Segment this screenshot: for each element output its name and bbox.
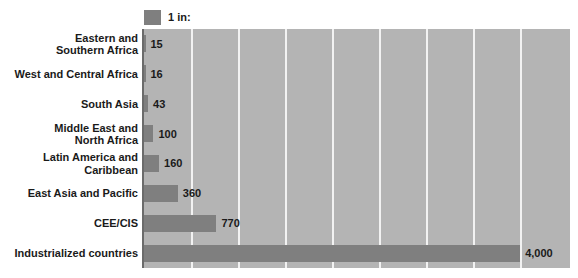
bar-value-label: 160: [164, 157, 182, 169]
bar-row: West and Central Africa16: [144, 59, 570, 89]
bar: [144, 35, 146, 52]
legend-swatch-icon: [144, 10, 161, 25]
plot-area: Eastern and Southern Africa15West and Ce…: [144, 29, 570, 268]
bar-row: Eastern and Southern Africa15: [144, 29, 570, 59]
bar: [144, 185, 178, 202]
bar-value-label: 4,000: [525, 247, 553, 259]
bar: [144, 125, 153, 142]
category-label: CEE/CIS: [0, 217, 138, 230]
bar-value-label: 360: [183, 187, 201, 199]
bar-value-label: 15: [151, 38, 163, 50]
bar: [144, 245, 520, 262]
bar: [144, 155, 159, 172]
category-label: Middle East and North Africa: [0, 121, 138, 146]
bar-row: East Asia and Pacific360: [144, 178, 570, 208]
category-label: Latin America and Caribbean: [0, 151, 138, 176]
bar: [144, 95, 148, 112]
bar-value-label: 100: [158, 128, 176, 140]
chart-legend: 1 in:: [144, 8, 191, 26]
bar: [144, 65, 146, 82]
bar-value-label: 16: [151, 68, 163, 80]
bar: [144, 215, 216, 232]
category-label: Eastern and Southern Africa: [0, 31, 138, 56]
bar-row: Latin America and Caribbean160: [144, 149, 570, 179]
bar-value-label: 43: [153, 98, 165, 110]
bar-row: South Asia43: [144, 89, 570, 119]
bar-row: Industrialized countries4,000: [144, 238, 570, 268]
category-label: East Asia and Pacific: [0, 187, 138, 200]
bar-row: CEE/CIS770: [144, 208, 570, 238]
category-label: Industrialized countries: [0, 247, 138, 260]
bar-value-label: 770: [221, 217, 239, 229]
chart-figure: 1 in: Eastern and Southern Africa15West …: [0, 0, 578, 278]
legend-label: 1 in:: [168, 12, 191, 23]
category-label: West and Central Africa: [0, 68, 138, 81]
category-label: South Asia: [0, 97, 138, 110]
bar-row: Middle East and North Africa100: [144, 119, 570, 149]
